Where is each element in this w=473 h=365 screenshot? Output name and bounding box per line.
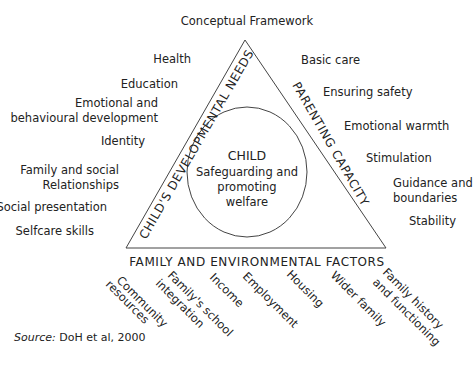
need-item: Emotional and [75,96,158,110]
diagram-title: Conceptual Framework [181,14,314,28]
need-item: Identity [101,134,145,148]
need-item: Education [121,77,178,91]
factor-item: Housing [284,267,327,310]
family-factors-list: Community resources Family's school inte… [103,265,447,349]
center-label: CHILD Safeguarding and promoting welfare [196,148,298,209]
need-item: Social presentation [0,200,107,214]
need-item: Selfcare skills [16,224,94,238]
capacity-item: Guidance and [393,176,473,190]
center-line-3: welfare [226,195,268,209]
framework-triangle [126,40,386,248]
source-citation: Source: DoH et al, 2000 [14,331,146,344]
factor-item: Income [207,270,247,310]
source-text: DoH et al, 2000 [56,331,146,344]
capacity-item: boundaries [393,191,457,205]
source-label: Source: [14,331,56,344]
capacity-item: Ensuring safety [323,85,413,99]
capacity-item: Stimulation [366,151,432,165]
capacity-item: Basic care [301,53,360,67]
side-label-family-factors: FAMILY AND ENVIRONMENTAL FACTORS [129,255,385,269]
capacity-item: Stability [409,214,456,228]
need-item: behavioural development [10,111,158,125]
need-item: Relationships [42,178,119,192]
framework-diagram: Conceptual Framework CHILD Safeguarding … [0,0,473,365]
need-item: Family and social [20,163,119,177]
center-line-1: Safeguarding and [196,165,298,179]
need-item: Health [153,52,191,66]
center-title: CHILD [228,148,266,163]
center-line-2: promoting [217,180,276,194]
capacity-item: Emotional warmth [344,119,449,133]
